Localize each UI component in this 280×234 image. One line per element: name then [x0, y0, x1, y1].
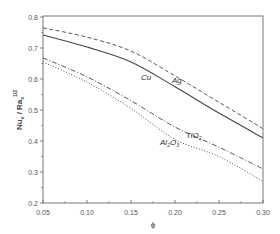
- series-label-al2o3: Al2O3: [159, 138, 179, 148]
- y-tick-label: 0.7: [28, 45, 38, 52]
- x-tick-label: 0.25: [212, 209, 226, 216]
- y-tick-label: 0.6: [28, 76, 38, 83]
- chart-background: [0, 0, 280, 234]
- x-tick-label: 0.30: [256, 209, 270, 216]
- line-chart: 0.050.100.150.200.250.30 0.20.30.40.50.6…: [0, 0, 280, 234]
- x-tick-label: 0.20: [168, 209, 182, 216]
- series-label-ag: Ag: [171, 76, 182, 85]
- x-tick-label: 0.10: [80, 209, 94, 216]
- y-tick-label: 0.5: [28, 107, 38, 114]
- x-axis-label: ϕ: [151, 220, 156, 229]
- series-label-cu: Cu: [141, 73, 152, 82]
- y-tick-label: 0.4: [28, 138, 38, 145]
- y-tick-label: 0.3: [28, 169, 38, 176]
- y-tick-label: 0.2: [28, 200, 38, 207]
- x-tick-label: 0.05: [36, 209, 50, 216]
- y-tick-label: 0.8: [28, 14, 38, 21]
- x-tick-label: 0.15: [124, 209, 138, 216]
